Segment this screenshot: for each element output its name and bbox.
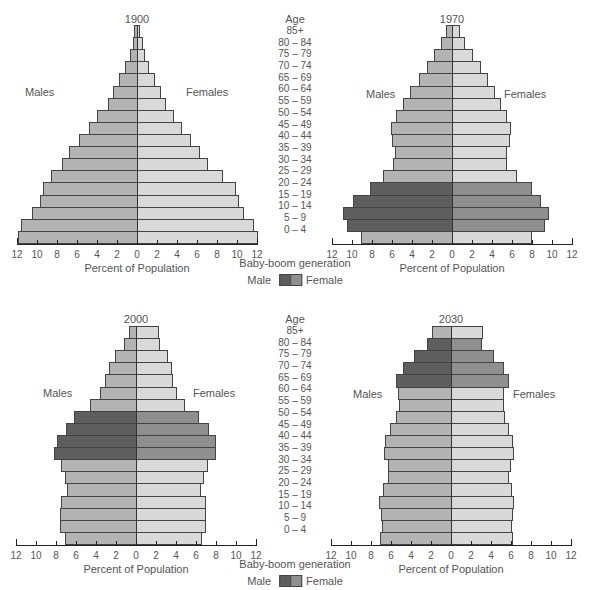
age-label: 45 – 49 bbox=[255, 419, 335, 431]
age-label: 10 – 14 bbox=[255, 500, 335, 512]
chart-title: 2030 bbox=[439, 313, 463, 325]
age-label: 10 – 14 bbox=[255, 200, 335, 212]
axis-tick bbox=[411, 541, 412, 546]
axis-tick bbox=[331, 539, 332, 546]
tick-label: 2 bbox=[469, 249, 475, 260]
axis-tick bbox=[552, 240, 553, 245]
tick-label: 12 bbox=[565, 550, 576, 561]
tick-label: 4 bbox=[174, 249, 180, 260]
tick-label: 10 bbox=[546, 249, 557, 260]
tick-label: 4 bbox=[173, 550, 179, 561]
age-label-list: 85+80 – 8475 – 7970 – 7465 – 6960 – 6455… bbox=[255, 25, 335, 235]
axis-tick bbox=[371, 541, 372, 546]
tick-label: 2 bbox=[113, 550, 119, 561]
center-line bbox=[451, 326, 452, 544]
age-label: 50 – 54 bbox=[255, 107, 335, 119]
axis-tick bbox=[57, 240, 58, 245]
axis-tick bbox=[196, 541, 197, 546]
tick-label: 6 bbox=[73, 550, 79, 561]
tick-label: 8 bbox=[368, 550, 374, 561]
age-label: 25 – 29 bbox=[255, 465, 335, 477]
axis-tick bbox=[97, 240, 98, 245]
age-label: 55 – 59 bbox=[255, 395, 335, 407]
tick-label: 2 bbox=[114, 249, 120, 260]
age-label: 85+ bbox=[255, 25, 335, 37]
axis-tick bbox=[157, 240, 158, 245]
age-label: 5 – 9 bbox=[255, 512, 335, 524]
tick-label: 2 bbox=[153, 550, 159, 561]
tick-label: 8 bbox=[214, 249, 220, 260]
bar-male-0-4 bbox=[361, 231, 452, 244]
axis-tick bbox=[431, 541, 432, 546]
baby-boom-label: Baby-boom generation bbox=[239, 558, 350, 570]
axis-tick bbox=[177, 240, 178, 245]
axis-tick bbox=[237, 240, 238, 245]
tick-label: 6 bbox=[389, 249, 395, 260]
tick-label: 8 bbox=[213, 550, 219, 561]
axis-tick bbox=[116, 541, 117, 546]
axis-tick bbox=[36, 541, 37, 546]
axis-tick bbox=[37, 240, 38, 245]
axis-tick bbox=[156, 541, 157, 546]
axis-tick bbox=[176, 541, 177, 546]
axis-tick bbox=[551, 541, 552, 546]
tick-label: 0 bbox=[448, 550, 454, 561]
axis-tick bbox=[572, 238, 573, 245]
tick-label: 12 bbox=[11, 249, 22, 260]
tick-label: 2 bbox=[429, 249, 435, 260]
age-label: 35 – 39 bbox=[255, 442, 335, 454]
center-line bbox=[136, 326, 137, 544]
axis-tick bbox=[236, 541, 237, 546]
females-label: Females bbox=[186, 86, 228, 98]
bar-female-0-4 bbox=[451, 532, 513, 545]
legend-female-label: Female bbox=[306, 274, 343, 286]
axis-tick bbox=[351, 541, 352, 546]
age-label: 70 – 74 bbox=[255, 60, 335, 72]
center-line bbox=[137, 25, 138, 243]
age-labels-bottom: Age 85+80 – 8475 – 7970 – 7465 – 6960 – … bbox=[255, 313, 335, 535]
axis-tick bbox=[197, 240, 198, 245]
legend: Male Female bbox=[247, 274, 343, 286]
age-label: 15 – 19 bbox=[255, 189, 335, 201]
axis-tick bbox=[531, 541, 532, 546]
center-line bbox=[452, 25, 453, 243]
axis-tick bbox=[451, 541, 452, 546]
axis-tick bbox=[77, 240, 78, 245]
axis-tick bbox=[432, 240, 433, 245]
chart-title: 2000 bbox=[124, 313, 148, 325]
axis-tick bbox=[217, 240, 218, 245]
bar-female-0-4 bbox=[136, 532, 202, 545]
axis-tick bbox=[137, 240, 138, 245]
age-label: 5 – 9 bbox=[255, 212, 335, 224]
age-label: 0 – 4 bbox=[255, 524, 335, 536]
tick-label: 4 bbox=[409, 249, 415, 260]
age-axis-title: Age bbox=[255, 13, 335, 25]
age-label: 80 – 84 bbox=[255, 337, 335, 349]
tick-label: 6 bbox=[194, 249, 200, 260]
axis-tick bbox=[136, 541, 137, 546]
axis-tick bbox=[332, 238, 333, 245]
males-label: Males bbox=[25, 86, 54, 98]
chart-title: 1970 bbox=[440, 13, 464, 25]
axis-tick bbox=[511, 541, 512, 546]
age-label: 60 – 64 bbox=[255, 83, 335, 95]
tick-label: 4 bbox=[408, 550, 414, 561]
tick-label: 4 bbox=[488, 550, 494, 561]
males-label: Males bbox=[353, 388, 382, 400]
tick-label: 6 bbox=[509, 249, 515, 260]
tick-label: 8 bbox=[53, 550, 59, 561]
age-label: 75 – 79 bbox=[255, 348, 335, 360]
tick-label: 6 bbox=[388, 550, 394, 561]
tick-label: 6 bbox=[74, 249, 80, 260]
axis-tick bbox=[257, 238, 258, 245]
legend-male-label: Male bbox=[247, 274, 271, 286]
legend-female-swatch bbox=[290, 274, 302, 286]
tick-label: 4 bbox=[93, 550, 99, 561]
tick-label: 6 bbox=[508, 550, 514, 561]
tick-label: 12 bbox=[10, 550, 21, 561]
age-label: 80 – 84 bbox=[255, 37, 335, 49]
age-label: 50 – 54 bbox=[255, 407, 335, 419]
axis-tick bbox=[96, 541, 97, 546]
tick-label: 0 bbox=[449, 249, 455, 260]
tick-label: 12 bbox=[566, 249, 577, 260]
